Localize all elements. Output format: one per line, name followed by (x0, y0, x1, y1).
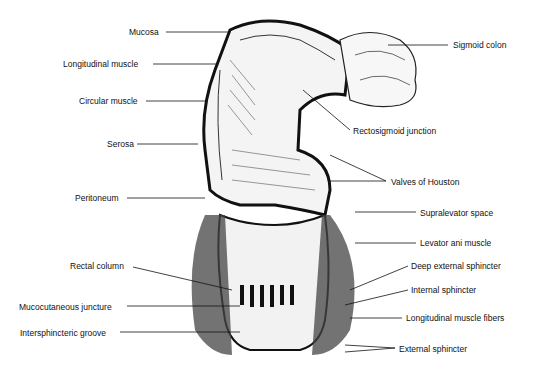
rectal-wall-outer (204, 21, 350, 215)
label-sigmoid-colon: Sigmoid colon (453, 40, 506, 50)
label-valves-of-houston: Valves of Houston (391, 177, 459, 187)
label-rectal-column: Rectal column (70, 261, 124, 271)
anal-canal-shape (218, 215, 328, 350)
label-serosa: Serosa (107, 139, 134, 149)
label-mucosa: Mucosa (129, 27, 159, 37)
label-levator-ani-muscle: Levator ani muscle (420, 238, 491, 248)
label-supralevator-space: Supralevator space (420, 208, 493, 218)
label-external-sphincter: External sphincter (399, 344, 467, 354)
sigmoid-colon-shape (340, 33, 416, 107)
label-intersphincteric-groove: Intersphincteric groove (20, 328, 106, 338)
label-peritoneum: Peritoneum (75, 193, 118, 203)
label-internal-sphincter: Internal sphincter (411, 285, 476, 295)
label-longitudinal-muscle-fibers: Longitudinal muscle fibers (406, 313, 504, 323)
label-circular-muscle: Circular muscle (79, 96, 138, 106)
label-mucocutaneous-juncture: Mucocutaneous juncture (19, 302, 112, 312)
label-longitudinal-muscle: Longitudinal muscle (63, 59, 138, 69)
label-rectosigmoid-junction: Rectosigmoid junction (353, 126, 436, 136)
label-deep-external-sphincter: Deep external sphincter (411, 261, 501, 271)
